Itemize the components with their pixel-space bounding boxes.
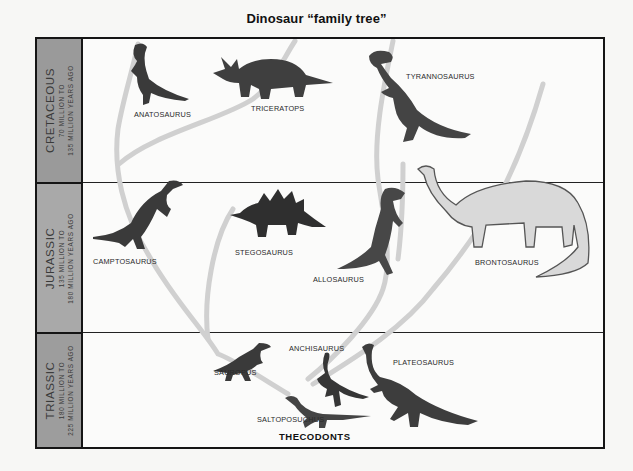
label-thecodonts-root: THECODONTS [279, 431, 351, 442]
era-divider [37, 332, 81, 334]
label-allosaurus: ALLOSAURUS [313, 275, 364, 284]
allosaurus-icon [335, 185, 415, 281]
era-range-start: 180 MILLION TO [57, 345, 66, 436]
era-name: CRETACEOUS [44, 65, 57, 156]
stegosaurus-icon [228, 187, 328, 247]
era-range-end: 225 MILLION YEARS AGO [66, 345, 75, 436]
label-sauropus: SAUROPUS [214, 368, 257, 377]
triceratops-icon [211, 55, 336, 103]
era-range-end: 135 MILLION YEARS AGO [66, 65, 75, 156]
era-name: JURASSIC [44, 213, 57, 304]
era-triassic: TRIASSIC 180 MILLION TO 225 MILLION YEAR… [37, 334, 81, 447]
era-name: TRIASSIC [44, 345, 57, 436]
tree-stage: ANATOSAURUS TRICERATOPS TYRANNOSAURUS CA… [83, 39, 603, 447]
era-column: CRETACEOUS 70 MILLION TO 135 MILLION YEA… [37, 39, 83, 447]
era-range-start: 135 MILLION TO [57, 213, 66, 304]
label-anatosaurus: ANATOSAURUS [134, 110, 191, 119]
label-stegosaurus: STEGOSAURUS [235, 248, 293, 257]
era-range-end: 180 MILLION YEARS AGO [66, 213, 75, 304]
label-triceratops: TRICERATOPS [251, 104, 304, 113]
label-plateosaurus: PLATEOSAURUS [393, 358, 454, 367]
era-jurassic: JURASSIC 135 MILLION TO 180 MILLION YEAR… [37, 184, 81, 332]
label-camptosaurus: CAMPTOSAURUS [93, 257, 157, 266]
era-divider [37, 182, 81, 184]
camptosaurus-icon [91, 177, 186, 252]
label-brontosaurus: BRONTOSAURUS [475, 258, 539, 267]
label-anchisaurus: ANCHISAURUS [289, 344, 344, 353]
label-saltoposuchus: SALTOPOSUCHUS [257, 415, 324, 424]
label-tyrannosaurus: TYRANNOSAURUS [406, 72, 475, 81]
family-tree-frame: CRETACEOUS 70 MILLION TO 135 MILLION YEA… [35, 37, 605, 449]
anatosaurus-icon [123, 41, 193, 111]
era-range-start: 70 MILLION TO [57, 65, 66, 156]
plateosaurus-icon [360, 341, 480, 431]
era-cretaceous: CRETACEOUS 70 MILLION TO 135 MILLION YEA… [37, 39, 81, 182]
tyrannosaurus-icon [367, 48, 477, 148]
diagram-title: Dinosaur “family tree” [0, 11, 633, 26]
